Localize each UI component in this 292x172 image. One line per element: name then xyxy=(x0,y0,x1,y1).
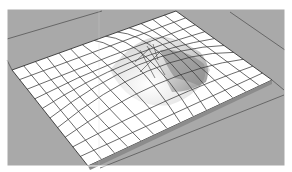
terrain-mesh-render xyxy=(0,0,292,172)
